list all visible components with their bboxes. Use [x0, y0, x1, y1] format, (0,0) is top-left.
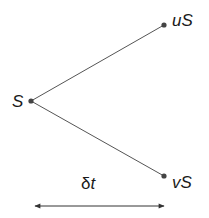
node-down-label: vS	[172, 173, 193, 192]
binomial-tree-diagram: S uS vS δt	[0, 0, 209, 218]
edge-down	[31, 101, 164, 176]
node-up-label: uS	[172, 11, 193, 30]
node-root-label: S	[12, 92, 24, 111]
time-step-label: δt	[81, 174, 96, 193]
edge-up	[31, 25, 164, 101]
node-up-dot	[161, 22, 166, 27]
node-down-dot	[161, 173, 166, 178]
time-step-delta: δ	[81, 174, 90, 193]
node-root-dot	[28, 98, 33, 103]
time-step-var: t	[90, 174, 96, 193]
